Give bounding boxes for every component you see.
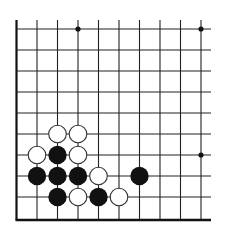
black-stone-icon [89,188,107,206]
black-stone-icon [69,167,87,185]
white-stone-icon [110,188,128,206]
black-stone-icon [48,167,66,185]
black-stone-icon [48,146,66,164]
black-stone-icon [28,167,46,185]
white-stone-icon [49,125,67,143]
star-point-icon [198,26,203,31]
white-stone-icon [69,125,87,143]
star-point-icon [198,152,203,157]
white-stone-icon [28,146,46,164]
stones [28,125,149,206]
star-point-icon [75,26,80,31]
black-stone-icon [48,188,66,206]
white-stone-icon [90,167,108,185]
white-stone-icon [69,188,87,206]
white-stone-icon [69,146,87,164]
go-board [0,0,227,236]
black-stone-icon [130,167,148,185]
